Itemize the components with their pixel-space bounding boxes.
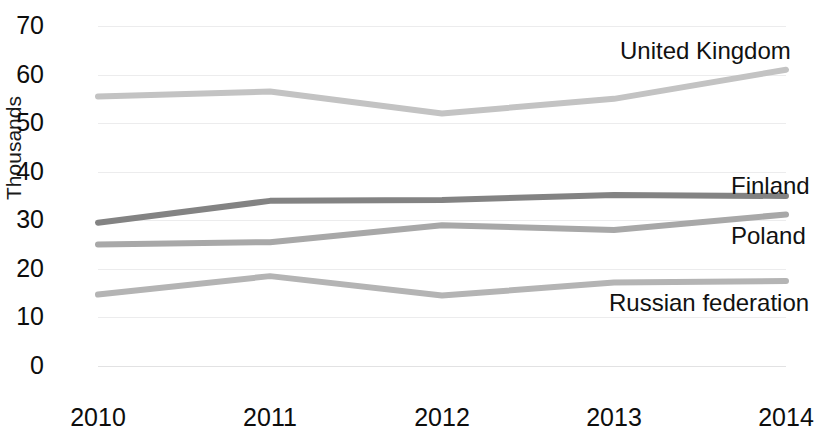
series-line <box>98 70 786 114</box>
y-axis-tick-label: 40 <box>0 159 44 184</box>
y-axis-tick-label: 20 <box>0 256 44 281</box>
y-axis-tick-label: 30 <box>0 207 44 232</box>
y-axis-title: Thousands <box>2 83 26 213</box>
y-axis-tick-label: 60 <box>0 62 44 87</box>
series-label: United Kingdom <box>620 39 791 63</box>
x-axis-tick-label: 2013 <box>554 403 674 430</box>
y-axis-tick-label: 0 <box>0 353 44 378</box>
gridline <box>98 366 786 367</box>
series-label: Finland <box>731 174 810 198</box>
y-axis-tick-label: 70 <box>0 13 44 38</box>
series-label: Poland <box>731 224 806 248</box>
x-axis-tick-label: 2010 <box>38 403 158 430</box>
y-axis-tick-label: 10 <box>0 304 44 329</box>
series-line <box>98 214 786 244</box>
y-axis-tick-label: 50 <box>0 110 44 135</box>
x-axis-tick-label: 2012 <box>382 403 502 430</box>
x-axis-tick-label: 2014 <box>726 403 826 430</box>
series-label: Russian federation <box>609 291 809 315</box>
chart-title <box>0 0 826 12</box>
x-axis-tick-label: 2011 <box>210 403 330 430</box>
series-line <box>98 195 786 223</box>
